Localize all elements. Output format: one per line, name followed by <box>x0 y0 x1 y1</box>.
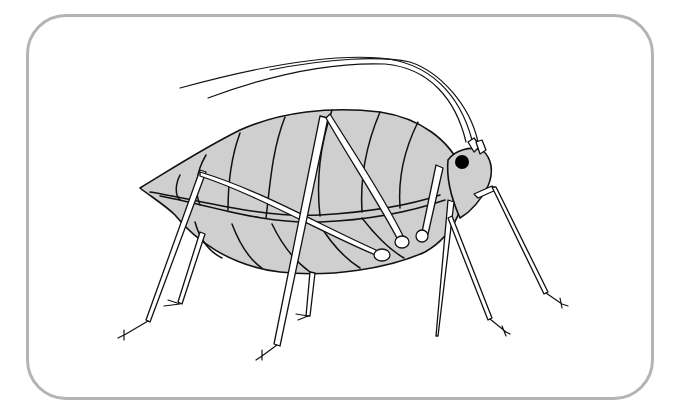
aphid-body <box>140 110 464 274</box>
aphid-illustration <box>0 0 675 418</box>
eye-icon <box>455 155 469 169</box>
